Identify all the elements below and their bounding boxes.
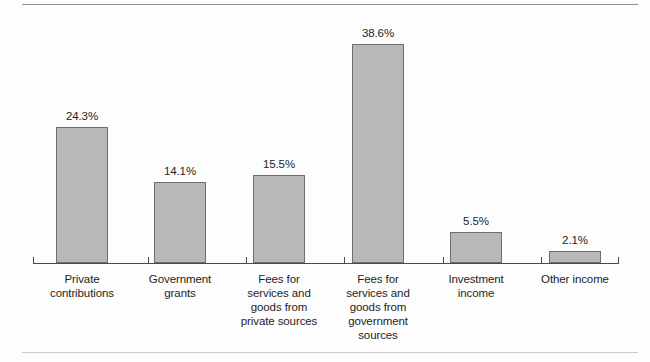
bar-value-label: 38.6% (333, 27, 423, 39)
chart-figure: 24.3% Private contributions 14.1% Govern… (0, 0, 650, 362)
bar-fees-government-sources (352, 44, 404, 263)
bar-value-label: 24.3% (37, 110, 127, 122)
bar-other-income (549, 251, 601, 263)
bar-category-label: Other income (516, 272, 634, 286)
bar-private-contributions (56, 127, 108, 263)
label-line: income (417, 286, 535, 300)
axis-tick (541, 257, 542, 263)
bar-chart-plot-area: 24.3% Private contributions 14.1% Govern… (0, 0, 650, 362)
label-line: government (319, 314, 437, 328)
bar-investment-income (450, 232, 502, 263)
bar-value-label: 5.5% (431, 215, 521, 227)
axis-tick (443, 257, 444, 263)
bar-fees-private-sources (253, 175, 305, 263)
x-axis-line (33, 263, 619, 264)
bar-value-label: 15.5% (234, 158, 324, 170)
bar-value-label: 14.1% (135, 165, 225, 177)
axis-tick (246, 257, 247, 263)
axis-tick (618, 257, 619, 263)
label-line: Other income (516, 272, 634, 286)
label-line: goods from (319, 300, 437, 314)
label-line: sources (319, 328, 437, 342)
bottom-divider-rule (22, 352, 638, 353)
axis-tick (33, 257, 34, 263)
bar-value-label: 2.1% (530, 234, 620, 246)
bar-government-grants (154, 182, 206, 263)
axis-tick (148, 257, 149, 263)
axis-tick (344, 257, 345, 263)
